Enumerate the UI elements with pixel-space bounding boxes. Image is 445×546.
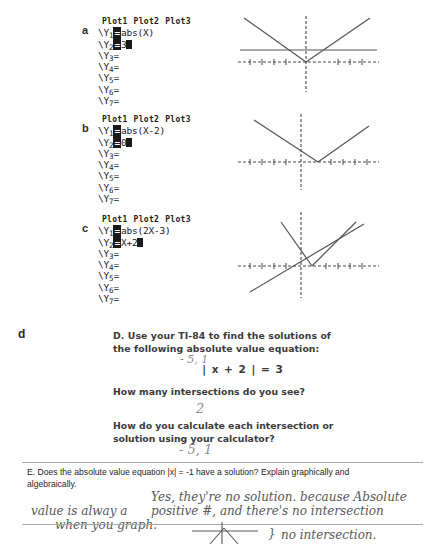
panel-label-b: b	[82, 122, 89, 134]
plot2-label-b[interactable]: Plot2	[134, 115, 160, 124]
plot-indicators-c: Plot1Plot2Plot3	[102, 214, 197, 225]
row-expression: abs(2X-3)	[121, 225, 171, 236]
cursor-block	[137, 238, 143, 247]
row-index: 7	[109, 297, 113, 306]
equals-marker: =	[113, 237, 121, 248]
calculator-screen-a: Plot1Plot2Plot3 \Y1=abs(X) \Y2=3 \Y3= \Y…	[98, 16, 197, 106]
handwritten-e-line2-left: value is alway a	[31, 504, 127, 518]
row-expression: X+2	[121, 237, 138, 248]
question-1: How many intersections do you see?	[113, 386, 393, 399]
cursor-block	[126, 138, 132, 147]
handwritten-answer-2: - 5, 1	[179, 442, 212, 457]
equals-marker: =	[113, 225, 121, 236]
calc-row[interactable]: \Y1=abs(2X-3)	[98, 225, 197, 236]
handwritten-answer-1: 2	[196, 401, 204, 416]
question-2-line2: solution using your calculator?	[113, 433, 393, 446]
question-2: How do you calculate each intersection o…	[113, 420, 393, 445]
calc-row[interactable]: \Y4=	[98, 259, 197, 270]
calculator-screen-b: Plot1Plot2Plot3 \Y1=abs(X-2) \Y2=0 \Y3= …	[98, 114, 197, 204]
equals-marker: =	[113, 27, 121, 38]
calc-row[interactable]: \Y6=	[98, 282, 197, 293]
section-d-equation: | x + 2 | = 3	[113, 363, 373, 376]
calc-row[interactable]: \Y2=3	[98, 39, 197, 50]
plot2-label-c[interactable]: Plot2	[134, 215, 160, 224]
plot1-label-c[interactable]: Plot1	[102, 215, 128, 224]
section-d-prompt-line1: D. Use your TI-84 to find the solutions …	[113, 330, 373, 343]
question-2-line1: How do you calculate each intersection o…	[113, 420, 393, 433]
handwritten-sketch-no-intersection	[186, 520, 276, 546]
calc-row[interactable]: \Y1=abs(X)	[98, 27, 197, 38]
plot2-label-a[interactable]: Plot2	[134, 17, 160, 26]
panel-label-d: d	[18, 327, 25, 341]
section-e-top-divider	[22, 462, 423, 463]
calc-row[interactable]: \Y4=	[98, 61, 197, 72]
plot-indicators-b: Plot1Plot2Plot3	[102, 114, 197, 125]
handwritten-annotation-arrow: }	[268, 527, 276, 541]
panel-label-c: c	[82, 222, 88, 234]
section-e-prompt-line1: E. Does the absolute value equation |x| …	[27, 467, 427, 479]
equals-marker: =	[113, 39, 121, 50]
handwritten-e-line2-right: positive #, and there's no intersection	[151, 504, 384, 518]
calculator-screen-c: Plot1Plot2Plot3 \Y1=abs(2X-3) \Y2=X+2 \Y…	[98, 214, 197, 304]
section-d-prompt-line2: the following absolute value equation:	[113, 343, 373, 356]
calc-row[interactable]: \Y3=	[98, 50, 197, 61]
worksheet-page: a Plot1Plot2Plot3 \Y1=abs(X) \Y2=3 \Y3= …	[0, 0, 445, 546]
plot3-label-c[interactable]: Plot3	[165, 215, 191, 224]
handwritten-e-line3: when you graph.	[55, 518, 157, 532]
row-expression: abs(X-2)	[121, 125, 165, 136]
section-e-prompt-line2: algebraically.	[27, 479, 427, 491]
equals-marker: =	[113, 137, 121, 148]
calc-row[interactable]: \Y7=	[98, 293, 197, 304]
calc-row[interactable]: \Y7=	[98, 95, 197, 106]
calc-row[interactable]: \Y6=	[98, 84, 197, 95]
calc-row[interactable]: \Y2=X+2	[98, 237, 197, 248]
plot3-label-a[interactable]: Plot3	[165, 17, 191, 26]
section-d-prompt: D. Use your TI-84 to find the solutions …	[113, 330, 373, 355]
calc-row[interactable]: \Y5=	[98, 72, 197, 83]
plot-indicators-a: Plot1Plot2Plot3	[102, 16, 197, 27]
section-e-prompt: E. Does the absolute value equation |x| …	[27, 467, 427, 490]
graph-c	[236, 208, 381, 300]
plot3-label-b[interactable]: Plot3	[165, 115, 191, 124]
row-index: 7	[109, 99, 113, 108]
graph-b	[236, 110, 381, 192]
cursor-block	[126, 40, 132, 49]
calc-row[interactable]: \Y4=	[98, 159, 197, 170]
calc-row[interactable]: \Y5=	[98, 270, 197, 281]
graph-a	[236, 14, 381, 94]
panel-label-a: a	[82, 24, 88, 36]
plot1-label-b[interactable]: Plot1	[102, 115, 128, 124]
row-expression: abs(X)	[121, 27, 154, 38]
handwritten-annotation: no intersection.	[281, 528, 376, 542]
calc-row[interactable]: \Y5=	[98, 170, 197, 181]
calc-row[interactable]: \Y3=	[98, 248, 197, 259]
calc-row[interactable]: \Y1=abs(X-2)	[98, 125, 197, 136]
calc-row[interactable]: \Y2=0	[98, 137, 197, 148]
calc-row[interactable]: \Y6=	[98, 182, 197, 193]
plot1-label-a[interactable]: Plot1	[102, 17, 128, 26]
calc-row[interactable]: \Y3=	[98, 148, 197, 159]
calc-row[interactable]: \Y7=	[98, 193, 197, 204]
equals-marker: =	[113, 125, 121, 136]
handwritten-e-line1: Yes, they're no solution. because Absolu…	[151, 490, 407, 504]
row-index: 7	[109, 197, 113, 206]
